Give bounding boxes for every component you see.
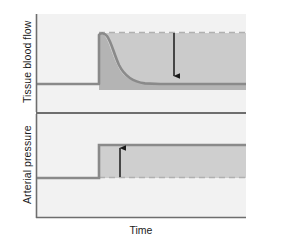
y-axis-label-arterial-pressure: Arterial pressure bbox=[21, 116, 35, 214]
x-axis-label-time: Time bbox=[35, 224, 247, 236]
panel-arterial-pressure bbox=[36, 114, 246, 218]
pressure-step-area bbox=[99, 145, 246, 178]
figure-container: Tissue blood flow Arterial pressure Time bbox=[0, 0, 300, 246]
panel-tissue-blood-flow bbox=[36, 14, 246, 112]
y-axis-label-tissue-blood-flow: Tissue blood flow bbox=[16, 14, 40, 110]
plots-svg bbox=[0, 0, 300, 246]
